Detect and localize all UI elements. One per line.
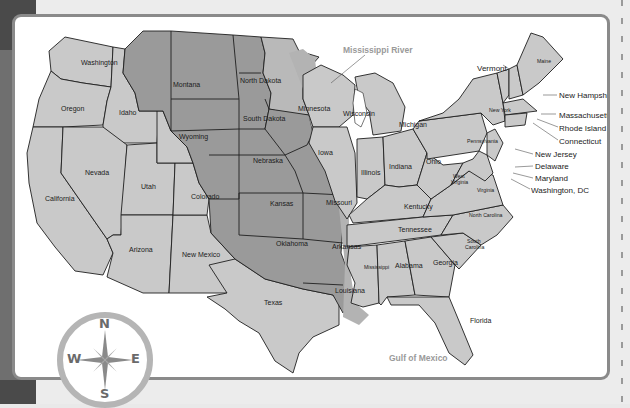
label-washington: Washington xyxy=(81,59,118,67)
label-louisiana: Louisiana xyxy=(335,287,365,294)
callout-new-hampshire: New Hampshire xyxy=(559,91,610,100)
label-idaho: Idaho xyxy=(119,109,137,116)
label-montana: Montana xyxy=(173,81,200,88)
page-fold-dashed-line xyxy=(621,0,623,404)
label-alabama: Alabama xyxy=(395,262,423,269)
label-indiana: Indiana xyxy=(389,163,412,170)
label-maine: Maine xyxy=(537,58,551,64)
state-connecticut-ri xyxy=(505,113,527,127)
label-ohio: Ohio xyxy=(426,158,441,165)
label-tennessee: Tennessee xyxy=(398,226,432,233)
label-minnesota: Minnesota xyxy=(298,105,330,112)
label-florida: Florida xyxy=(470,317,492,324)
label-wyoming: Wyoming xyxy=(179,133,208,141)
compass-north: N xyxy=(99,316,110,331)
label-north-dakota: North Dakota xyxy=(240,77,281,84)
label-mississippi: Mississippi xyxy=(364,264,389,270)
label-south-carolina-2: Carolina xyxy=(465,244,484,250)
label-mississippi-river: Mississippi River xyxy=(343,45,413,55)
state-wisconsin xyxy=(303,65,355,127)
label-nevada: Nevada xyxy=(85,169,109,176)
label-new-mexico: New Mexico xyxy=(182,251,220,258)
callout-rhode-island: Rhode Island xyxy=(559,124,606,133)
label-virginia: Virginia xyxy=(477,187,494,193)
label-wisconsin: Wisconsin xyxy=(343,110,375,117)
label-michigan: Michigan xyxy=(399,121,427,129)
state-new-jersey xyxy=(487,129,503,161)
label-oklahoma: Oklahoma xyxy=(276,240,308,247)
label-utah: Utah xyxy=(141,183,156,190)
label-iowa: Iowa xyxy=(318,149,333,156)
label-arkansas: Arkansas xyxy=(332,243,362,250)
label-texas: Texas xyxy=(264,299,283,306)
callout-connecticut: Connecticut xyxy=(559,137,602,146)
label-kentucky: Kentucky xyxy=(404,203,433,211)
label-new-york: New York xyxy=(489,107,511,113)
callout-vermont: Vermont xyxy=(477,64,508,73)
label-california: California xyxy=(45,195,75,202)
compass-rose: N S W E xyxy=(57,312,153,408)
label-missouri: Missouri xyxy=(326,199,353,206)
label-oregon: Oregon xyxy=(61,105,84,113)
label-north-carolina: North Carolina xyxy=(469,212,503,218)
label-colorado: Colorado xyxy=(191,193,220,200)
compass-east: E xyxy=(131,351,140,366)
state-maine xyxy=(517,33,563,95)
label-west-virginia-2: Virginia xyxy=(451,179,468,185)
label-pennsylvania: Pennsylvania xyxy=(467,138,498,144)
compass-south: S xyxy=(100,386,109,401)
label-illinois: Illinois xyxy=(361,169,381,176)
label-nebraska: Nebraska xyxy=(253,157,283,164)
left-margin-strip-bottom xyxy=(0,380,36,404)
label-south-dakota: South Dakota xyxy=(243,115,286,122)
callout-maryland: Maryland xyxy=(535,174,568,183)
state-mississippi xyxy=(347,245,379,307)
label-georgia: Georgia xyxy=(433,259,458,267)
label-kansas: Kansas xyxy=(270,200,294,207)
label-gulf-of-mexico: Gulf of Mexico xyxy=(389,353,448,363)
compass-west: W xyxy=(67,351,81,366)
label-arizona: Arizona xyxy=(129,246,153,253)
callout-delaware: Delaware xyxy=(535,162,569,171)
callout-massachusetts: Massachusetts xyxy=(559,111,610,120)
callout-washington-dc: Washington, DC xyxy=(531,186,589,195)
callout-new-jersey: New Jersey xyxy=(535,150,577,159)
